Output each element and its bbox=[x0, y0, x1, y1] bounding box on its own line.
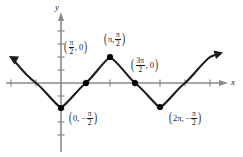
x-axis-label: x bbox=[231, 78, 235, 87]
label-pi-pi-over-2: ( π, π 2 ) bbox=[103, 31, 126, 48]
label-pi-over-2-zero: ( π 2 , 0 ) bbox=[63, 39, 88, 56]
label-separator: , 0 bbox=[75, 43, 84, 52]
paren-open: ( bbox=[131, 59, 134, 71]
trigonometric-graph-figure: y x ( π 2 , 0 ) ( π, π 2 ) bbox=[0, 0, 243, 157]
fraction-pi-over-2: π 2 bbox=[115, 31, 121, 48]
fraction-pi-over-2: π 2 bbox=[191, 110, 197, 127]
paren-open: ( bbox=[64, 41, 67, 53]
fraction-pi-over-2: π 2 bbox=[69, 39, 75, 56]
plot-canvas bbox=[0, 0, 243, 157]
label-prefix: π, bbox=[108, 35, 114, 44]
paren-close: ) bbox=[122, 33, 125, 45]
y-axis bbox=[58, 12, 65, 152]
label-separator: , 0 bbox=[146, 61, 155, 70]
paren-close: ) bbox=[84, 41, 87, 53]
point-0-neg-pi-over-2 bbox=[58, 105, 64, 111]
cosine-curve bbox=[9, 51, 223, 109]
point-pi-pi-over-2 bbox=[107, 54, 113, 60]
paren-close: ) bbox=[94, 112, 97, 124]
label-prefix: 0, − bbox=[73, 114, 86, 123]
paren-open: ( bbox=[69, 112, 72, 124]
paren-open: ( bbox=[104, 33, 107, 45]
point-2pi-neg-pi-over-2 bbox=[157, 104, 163, 110]
paren-open: ( bbox=[169, 112, 172, 124]
point-pi-over-2-zero bbox=[83, 80, 89, 86]
label-prefix: 2π, − bbox=[173, 114, 191, 123]
label-3pi-over-2-zero: ( 3π 2 , 0 ) bbox=[130, 57, 159, 74]
fraction-pi-over-2: π 2 bbox=[87, 110, 93, 127]
paren-close: ) bbox=[198, 112, 201, 124]
paren-close: ) bbox=[155, 59, 158, 71]
y-axis-label: y bbox=[55, 3, 59, 12]
fraction-3pi-over-2: 3π 2 bbox=[136, 57, 146, 74]
point-3pi-over-2-zero bbox=[132, 80, 138, 86]
label-zero-neg-pi-over-2: ( 0, − π 2 ) bbox=[68, 110, 98, 127]
label-2pi-neg-pi-over-2: ( 2π, − π 2 ) bbox=[168, 110, 202, 127]
